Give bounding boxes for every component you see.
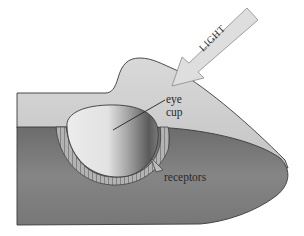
receptors-label: receptors xyxy=(164,171,207,184)
light-arrow-icon xyxy=(172,8,258,86)
eye-cup-label-line1: eye xyxy=(166,93,182,106)
eye-cup-diagram: LIGHT eye cup receptors xyxy=(0,0,304,236)
eye-cup-label-line2: cup xyxy=(166,106,183,119)
